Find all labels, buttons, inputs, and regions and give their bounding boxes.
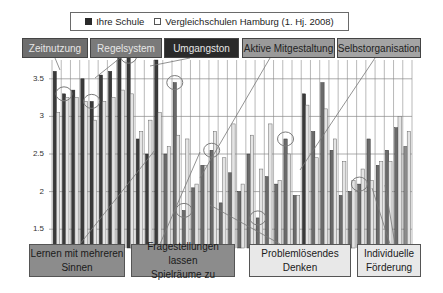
bar-vergleichschulen <box>389 162 392 248</box>
bar-vergleichschulen <box>121 90 124 248</box>
bar-vergleichschulen <box>149 120 152 248</box>
y-tick-label: 3 <box>24 111 44 120</box>
bottom-category-label: Fragestellungen lassenSpielräume zu <box>131 244 235 277</box>
y-tick-label: 1.5 <box>24 224 44 233</box>
bar-ihre-schule <box>90 101 93 248</box>
bar-vergleichschulen <box>66 98 69 248</box>
bar-ihre-schule <box>339 195 342 248</box>
bar-vergleichschulen <box>380 162 383 248</box>
bar-vergleichschulen <box>306 105 309 248</box>
bar-ihre-schule <box>118 52 121 248</box>
label-line: Sinnen <box>61 261 92 275</box>
bar-vergleichschulen <box>223 158 226 248</box>
label-line: Fragestellungen lassen <box>132 240 234 268</box>
bar-ihre-schule <box>284 139 287 248</box>
bar-vergleichschulen <box>278 180 281 248</box>
bar-vergleichschulen <box>176 135 179 248</box>
bar-ihre-schule <box>201 165 204 248</box>
top-category-label: Umgangston <box>164 38 239 58</box>
connector-line <box>300 58 375 170</box>
bar-vergleichschulen <box>260 169 263 248</box>
bar-vergleichschulen <box>167 146 170 248</box>
label-line: Lernen mit mehreren <box>31 247 124 261</box>
bar-ihre-schule <box>72 90 75 248</box>
bar-vergleichschulen <box>232 124 235 248</box>
bar-vergleichschulen <box>352 180 355 248</box>
bar-ihre-schule <box>293 195 296 248</box>
bar-ihre-schule <box>302 94 305 248</box>
bar-ihre-schule <box>238 192 241 248</box>
bar-vergleichschulen <box>361 169 364 248</box>
top-category-label: Aktive Mitgestaltung <box>242 38 335 58</box>
bar-vergleichschulen <box>140 131 143 248</box>
bar-ihre-schule <box>247 154 250 248</box>
top-category-label: Zeitnutzung <box>22 38 88 58</box>
bar-ihre-schule <box>321 83 324 248</box>
bar-ihre-schule <box>173 83 176 248</box>
bar-ihre-schule <box>62 94 65 248</box>
label-line: Spielräume zu <box>151 268 215 282</box>
bottom-category-label: IndividuelleFörderung <box>357 244 421 277</box>
bar-vergleichschulen <box>250 135 253 248</box>
bar-ihre-schule <box>330 150 333 248</box>
bar-vergleichschulen <box>241 184 244 248</box>
bar-ihre-schule <box>395 128 398 248</box>
bar-vergleichschulen <box>398 116 401 248</box>
bar-ihre-schule <box>145 154 148 248</box>
bar-vergleichschulen <box>186 139 189 248</box>
bar-vergleichschulen <box>56 113 59 248</box>
label-line: Förderung <box>366 261 412 275</box>
bar-ihre-schule <box>108 71 111 248</box>
bar-ihre-schule <box>81 79 84 248</box>
bar-vergleichschulen <box>204 165 207 248</box>
bar-vergleichschulen <box>333 139 336 248</box>
bar-ihre-schule <box>348 192 351 248</box>
bar-ihre-schule <box>127 56 130 248</box>
connector-line <box>55 58 60 70</box>
bottom-category-label: Lernen mit mehrerenSinnen <box>29 244 125 277</box>
bar-vergleichschulen <box>407 131 410 248</box>
bar-vergleichschulen <box>287 154 290 248</box>
bar-ihre-schule <box>228 173 231 248</box>
label-line: Individuelle <box>364 247 414 261</box>
y-tick-label: 3.5 <box>24 74 44 83</box>
bar-ihre-schule <box>210 150 213 248</box>
bar-vergleichschulen <box>103 101 106 248</box>
bar-vergleichschulen <box>93 120 96 248</box>
bar-vergleichschulen <box>269 124 272 248</box>
bar-ihre-schule <box>404 146 407 248</box>
bar-ihre-schule <box>275 184 278 248</box>
bar-ihre-schule <box>358 184 361 248</box>
bar-ihre-schule <box>136 139 139 248</box>
y-tick-label: 2 <box>24 187 44 196</box>
label-line: Problemlösendes <box>261 247 338 261</box>
bar-vergleichschulen <box>75 98 78 248</box>
top-category-label: Regelsystem <box>90 38 162 58</box>
bottom-category-label: ProblemlösendesDenken <box>249 244 351 277</box>
label-line: Denken <box>283 261 317 275</box>
bar-vergleichschulen <box>343 162 346 248</box>
bar-vergleichschulen <box>315 158 318 248</box>
bar-vergleichschulen <box>158 113 161 248</box>
bar-vergleichschulen <box>296 195 299 248</box>
bar-vergleichschulen <box>130 94 133 248</box>
bar-vergleichschulen <box>84 101 87 248</box>
bar-ihre-schule <box>155 60 158 248</box>
bar-vergleichschulen <box>195 184 198 248</box>
bar-ihre-schule <box>367 139 370 248</box>
top-category-label: Selbstorganisation <box>337 38 421 58</box>
bar-ihre-schule <box>53 71 56 248</box>
bar-vergleichschulen <box>213 131 216 248</box>
bar-vergleichschulen <box>112 98 115 248</box>
y-tick-label: 2.5 <box>24 149 44 158</box>
